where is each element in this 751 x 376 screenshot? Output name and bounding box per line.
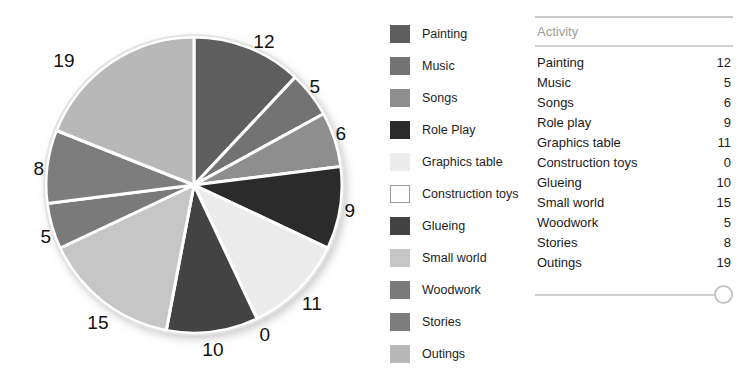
pie-slice-value-label: 9 — [345, 201, 356, 220]
legend-item[interactable]: Glueing — [380, 210, 535, 242]
pie-chart-panel: 1256911010155819 — [0, 0, 380, 376]
table-cell-activity: Stories — [537, 233, 577, 253]
legend-item[interactable]: Role Play — [380, 114, 535, 146]
legend-item-label: Woodwork — [422, 284, 481, 297]
table-cell-count: 19 — [717, 253, 731, 273]
table-cell-count: 11 — [718, 133, 732, 153]
table-cell-activity: Outings — [537, 253, 582, 273]
legend-item[interactable]: Painting — [380, 18, 535, 50]
table-cell-activity: Small world — [537, 193, 604, 213]
table-row[interactable]: Songs6 — [535, 93, 733, 113]
legend-color-swatch — [390, 249, 410, 267]
legend-color-swatch — [390, 25, 410, 43]
activity-table: Activity Painting12Music5Songs6Role play… — [535, 16, 733, 305]
pie-slice-value-label: 5 — [41, 227, 52, 246]
table-row[interactable]: Painting12 — [535, 53, 733, 73]
table-row[interactable]: Stories8 — [535, 233, 733, 253]
table-cell-count: 5 — [724, 73, 731, 93]
table-cell-activity: Construction toys — [537, 153, 637, 173]
pie-slice-group[interactable] — [46, 37, 342, 333]
table-body: Painting12Music5Songs6Role play9Graphics… — [535, 47, 733, 273]
pie-slice-value-label: 11 — [302, 294, 322, 313]
pie-slice-value-label: 12 — [253, 32, 275, 51]
slider-track[interactable] — [535, 294, 733, 296]
legend-item-label: Outings — [422, 348, 465, 361]
activity-table-panel: Activity Painting12Music5Songs6Role play… — [535, 0, 751, 305]
table-cell-activity: Role play — [537, 113, 591, 133]
legend-item[interactable]: Woodwork — [380, 274, 535, 306]
pie-slice-value-label: 10 — [202, 340, 224, 359]
table-cell-count: 9 — [724, 113, 731, 133]
pie-slice-value-label: 6 — [336, 124, 347, 143]
table-cell-activity: Music — [537, 73, 571, 93]
legend-item-label: Songs — [422, 92, 457, 105]
pie-slice-value-label: 15 — [87, 313, 109, 332]
slider-thumb[interactable] — [714, 285, 733, 304]
table-row[interactable]: Role play9 — [535, 113, 733, 133]
legend-item-label: Painting — [422, 28, 467, 41]
table-cell-count: 8 — [724, 233, 731, 253]
legend-color-swatch — [390, 121, 410, 139]
legend-color-swatch — [390, 153, 410, 171]
page-root: 1256911010155819 PaintingMusicSongsRole … — [0, 0, 751, 376]
table-cell-activity: Woodwork — [537, 213, 598, 233]
table-slider[interactable] — [535, 285, 733, 305]
legend-color-swatch — [390, 57, 410, 75]
table-row[interactable]: Music5 — [535, 73, 733, 93]
legend-item[interactable]: Graphics table — [380, 146, 535, 178]
chart-legend: PaintingMusicSongsRole PlayGraphics tabl… — [380, 0, 535, 370]
legend-item-label: Glueing — [422, 220, 465, 233]
legend-color-swatch — [390, 313, 410, 331]
legend-item-label: Stories — [422, 316, 461, 329]
legend-item-label: Graphics table — [422, 156, 503, 169]
legend-item[interactable]: Songs — [380, 82, 535, 114]
pie-chart-stage: 1256911010155819 — [0, 0, 380, 376]
pie-slice-value-label: 8 — [34, 159, 45, 178]
table-cell-activity: Glueing — [537, 173, 582, 193]
table-cell-activity: Graphics table — [537, 133, 621, 153]
legend-item[interactable]: Music — [380, 50, 535, 82]
legend-color-swatch — [390, 89, 410, 107]
table-column-header-activity: Activity — [535, 18, 733, 45]
legend-item-label: Small world — [422, 252, 487, 265]
legend-color-swatch — [390, 281, 410, 299]
legend-item[interactable]: Outings — [380, 338, 535, 370]
legend-list: PaintingMusicSongsRole PlayGraphics tabl… — [380, 18, 535, 370]
table-cell-count: 12 — [717, 53, 731, 73]
pie-slice-value-label: 19 — [53, 51, 75, 70]
table-cell-activity: Painting — [537, 53, 584, 73]
legend-color-swatch — [390, 217, 410, 235]
table-cell-count: 0 — [724, 153, 731, 173]
table-cell-count: 6 — [724, 93, 731, 113]
legend-item-label: Role Play — [422, 124, 476, 137]
table-row[interactable]: Small world15 — [535, 193, 733, 213]
table-row[interactable]: Outings19 — [535, 253, 733, 273]
table-cell-count: 5 — [724, 213, 731, 233]
legend-color-swatch — [390, 345, 410, 363]
table-cell-count: 15 — [717, 193, 731, 213]
pie-slice-value-label: 5 — [310, 77, 321, 96]
legend-item-label: Construction toys — [422, 188, 519, 201]
table-row[interactable]: Woodwork5 — [535, 213, 733, 233]
table-cell-activity: Songs — [537, 93, 574, 113]
table-cell-count: 10 — [717, 173, 731, 193]
legend-item[interactable]: Small world — [380, 242, 535, 274]
legend-item[interactable]: Stories — [380, 306, 535, 338]
pie-slice-value-label: 0 — [260, 325, 271, 344]
table-row[interactable]: Glueing10 — [535, 173, 733, 193]
table-row[interactable]: Construction toys0 — [535, 153, 733, 173]
legend-color-swatch — [390, 185, 410, 203]
legend-item-label: Music — [422, 60, 455, 73]
legend-item[interactable]: Construction toys — [380, 178, 535, 210]
table-row[interactable]: Graphics table11 — [535, 133, 733, 153]
